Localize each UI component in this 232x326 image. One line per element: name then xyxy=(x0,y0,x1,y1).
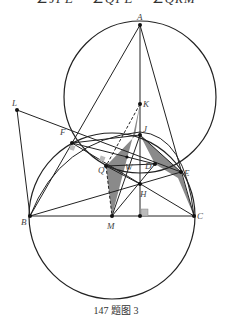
point-l xyxy=(15,108,19,112)
right-angle-mark-foot xyxy=(141,209,148,216)
label-b: B xyxy=(21,217,27,227)
shaded-triangle-kjq xyxy=(106,104,140,216)
right-angle-mark-q xyxy=(99,155,105,161)
point-f xyxy=(70,141,74,145)
label-a: A xyxy=(136,12,143,22)
right-angle-mark-f xyxy=(69,144,75,150)
point-c xyxy=(192,214,196,218)
label-c: C xyxy=(197,211,204,221)
label-w: W xyxy=(125,162,134,172)
point-a xyxy=(138,23,142,27)
label-j: J xyxy=(143,124,148,134)
point-h xyxy=(138,182,142,186)
point-e xyxy=(179,170,183,174)
points xyxy=(15,23,196,218)
point-j xyxy=(138,133,142,137)
point-foot xyxy=(138,214,142,218)
point-k xyxy=(138,102,142,106)
point-m xyxy=(110,214,114,218)
label-q: Q xyxy=(98,165,105,175)
label-e: E xyxy=(183,168,190,178)
point-b xyxy=(28,214,32,218)
label-d: D xyxy=(144,161,152,171)
geometry-diagram: A K J L F Q W D E H B M C xyxy=(0,0,232,300)
label-k: K xyxy=(142,99,150,109)
label-l: L xyxy=(11,98,17,108)
point-q xyxy=(104,164,108,168)
point-d xyxy=(153,162,157,166)
point-w xyxy=(125,155,128,158)
figure-caption: 147 题图 3 xyxy=(0,302,232,317)
label-f: F xyxy=(59,127,66,137)
label-m: M xyxy=(106,221,115,231)
segments xyxy=(17,25,194,216)
label-h: H xyxy=(139,189,147,199)
